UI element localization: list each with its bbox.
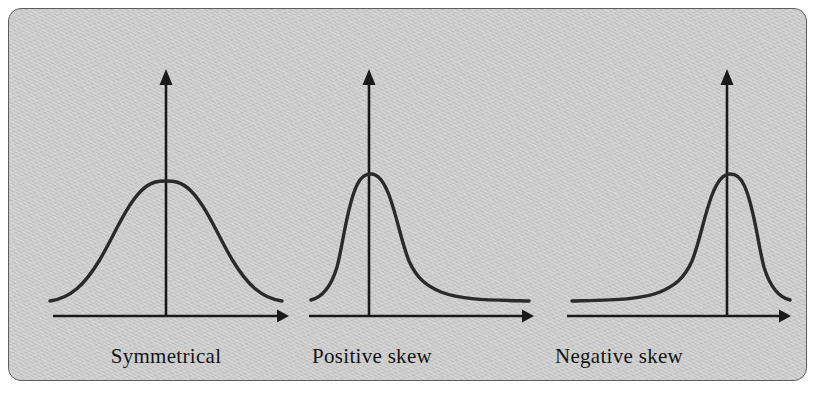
negative-skew-curve: [572, 174, 790, 301]
negative-skew-y-axis-arrow-icon: [721, 69, 734, 85]
negative-skew-x-axis-arrow-icon: [779, 310, 791, 323]
caption-symmetrical: Symmetrical: [56, 344, 276, 369]
figure-panel: Symmetrical Positive skew Negative skew: [8, 8, 807, 381]
caption-negative-skew: Negative skew: [509, 344, 729, 369]
distribution-diagrams: [9, 9, 806, 380]
figure-page: Symmetrical Positive skew Negative skew: [0, 0, 817, 395]
caption-positive-skew: Positive skew: [262, 344, 482, 369]
negative-skew-plot: [9, 9, 807, 381]
